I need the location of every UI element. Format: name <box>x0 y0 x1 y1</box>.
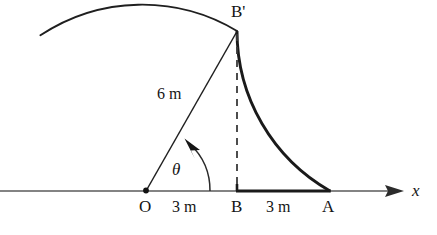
figure-svg <box>0 0 437 235</box>
diagram-canvas: B' 6 m θ O 3 m B 3 m A x <box>0 0 437 235</box>
angle-arc-theta <box>190 144 210 191</box>
angle-arc-arrowhead <box>185 139 201 159</box>
label-radius-6m: 6 m <box>157 86 181 102</box>
radius-line <box>146 31 238 192</box>
label-segment-ba-3m: 3 m <box>266 199 290 215</box>
sector-arc-b-prime-to-a <box>237 31 330 191</box>
label-point-o: O <box>139 198 151 215</box>
label-angle-theta: θ <box>172 161 180 178</box>
label-axis-x: x <box>412 182 420 199</box>
label-point-a: A <box>322 198 334 215</box>
label-point-b: B <box>231 198 242 215</box>
origin-dot <box>143 188 149 194</box>
label-segment-ob-3m: 3 m <box>172 199 196 215</box>
upper-left-arc <box>40 5 237 36</box>
label-point-b-prime: B' <box>231 3 245 20</box>
